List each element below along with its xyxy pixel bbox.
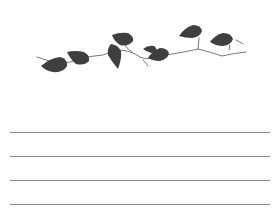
leaf-icon (179, 25, 202, 38)
leaf-icon (112, 33, 133, 46)
ruled-line-4 (10, 204, 270, 205)
leaf-icon (41, 57, 67, 72)
ruled-line-1 (10, 132, 270, 133)
leaf-icon (67, 51, 89, 65)
ruled-line-3 (10, 180, 270, 181)
vine-leaves (41, 25, 233, 72)
leaf-icon (108, 44, 121, 69)
ivy-vine-decoration (0, 0, 280, 100)
leaf-icon (210, 33, 233, 46)
ruled-line-2 (10, 156, 270, 157)
